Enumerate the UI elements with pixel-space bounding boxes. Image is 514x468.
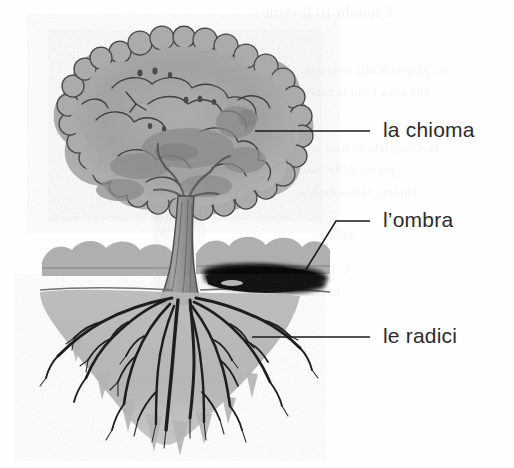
label-la-chioma: la chioma xyxy=(383,119,475,140)
tree-illustration xyxy=(0,0,514,468)
label-le-radici: le radici xyxy=(383,325,457,346)
label-lombra: l’ombra xyxy=(383,209,453,230)
tree-crown xyxy=(54,26,314,220)
figure-page: Capitolo 10 Il verde A. Rispondi alle do… xyxy=(0,0,514,468)
